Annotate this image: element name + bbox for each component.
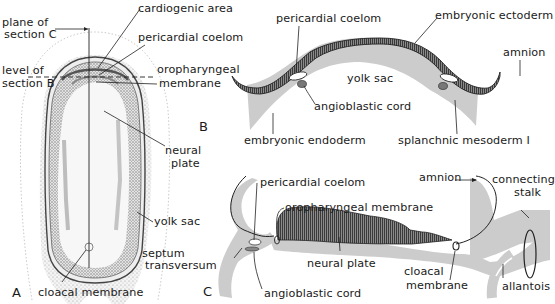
label-pericardial-coelom-a: pericardial coelom [138,31,243,44]
label-neural-plate-a-line2: plate [171,157,200,170]
label-oropharyngeal-membrane-a-line1: oropharyngeal [157,63,240,76]
label-pericardial-coelom-c: pericardial coelom [260,176,365,189]
label-allantois: allantois [502,280,550,293]
label-level-of-section-b-line2: section B [2,77,54,90]
label-oropharyngeal-membrane-c: oropharyngeal membrane [285,201,433,214]
label-embryonic-endoderm: embryonic endoderm [244,134,366,147]
label-plane-of-section-c-line2: section C [4,28,57,41]
label-pericardial-coelom-b: pericardial coelom [276,12,381,25]
label-cloacal-membrane-c-line1: cloacal [404,265,444,278]
label-splanchnic-mesoderm: splanchnic mesoderm I [398,134,530,147]
panel-letter-a: A [12,285,21,300]
label-embryonic-ectoderm: embryonic ectoderm [435,9,553,22]
label-connecting-stalk-line2: stalk [514,186,541,199]
label-yolk-sac-a: yolk sac [154,215,200,228]
label-level-of-section-b-line1: level of [2,64,44,77]
label-neural-plate-c: neural plate [307,257,376,270]
panel-letter-c: C [203,284,212,299]
label-amnion-b: amnion [503,46,546,59]
label-cardiogenic-area: cardiogenic area [138,2,233,15]
label-yolk-sac-b: yolk sac [347,72,393,85]
label-neural-plate-a-line1: neural [165,144,201,157]
label-cloacal-membrane-c-line2: membrane [406,279,468,292]
label-amnion-c: amnion [419,171,462,184]
label-connecting-stalk-line1: connecting [492,173,555,186]
label-oropharyngeal-membrane-a-line2: membrane [159,77,221,90]
label-septum-transversum-line2: transversum [145,259,217,272]
panel-c-drawing [218,176,550,298]
label-angioblastic-cord-c: angioblastic cord [264,287,361,300]
panel-letter-b: B [199,119,208,134]
label-angioblastic-cord-b: angioblastic cord [314,100,411,113]
label-cloacal-membrane-a: cloacal membrane [38,286,143,299]
